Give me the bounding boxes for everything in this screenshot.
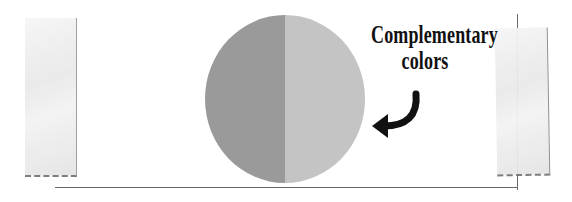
paper-edge-bottom [55, 187, 518, 188]
tape-left [25, 18, 77, 177]
annotation-label: Complementary colors [371, 22, 479, 74]
circle-left-half [205, 15, 285, 183]
complementary-circle [205, 15, 365, 183]
curved-arrow-icon [368, 90, 428, 140]
annotation-line-1: Complementary [371, 22, 479, 48]
circle-right-half [285, 15, 365, 183]
tape-right [495, 28, 551, 177]
annotation-line-2: colors [371, 48, 479, 74]
